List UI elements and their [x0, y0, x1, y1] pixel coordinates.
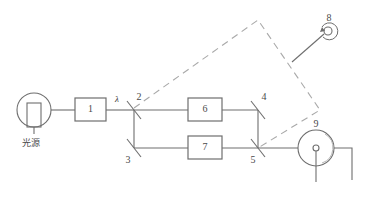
component-5-label: 5	[247, 155, 259, 165]
light-source-lamp	[17, 93, 51, 134]
component-4-label: 4	[258, 92, 270, 102]
component-1-label: 1	[75, 104, 106, 114]
wavelength-label: λ	[115, 95, 119, 104]
component-7-label: 7	[188, 142, 222, 152]
component-2-label: 2	[133, 92, 145, 102]
component-8-label: 8	[324, 13, 334, 23]
component-9-label: 9	[311, 119, 321, 129]
component-8-knob	[292, 23, 338, 62]
schematic-drawing	[0, 0, 365, 199]
optical-schematic-figure: 光源 λ 1 2 3 4 5 6 7 8 9	[0, 0, 365, 199]
source-caption: 光源	[22, 139, 40, 148]
component-6-label: 6	[188, 104, 222, 114]
dashed-beam-path	[134, 20, 320, 148]
component-3-label: 3	[122, 155, 134, 165]
component-9-detector	[298, 130, 352, 182]
